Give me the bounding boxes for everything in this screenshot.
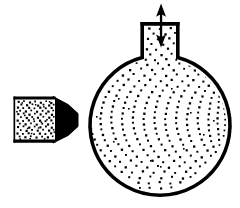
figure-root: Sublimation of a solid into a round-bott… [0,0,240,208]
block-face-left-edge [14,97,16,143]
block-face-bottom-edge [14,140,56,143]
block-face-top-edge [14,97,56,100]
diagram-canvas [0,0,240,208]
